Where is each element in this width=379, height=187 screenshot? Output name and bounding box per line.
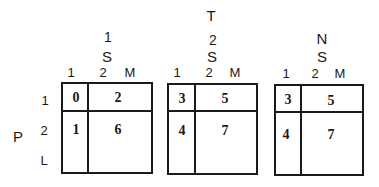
- panel-3-header-s: S: [317, 49, 327, 64]
- row-level-1: 1: [41, 94, 48, 107]
- panel-1-col-m: M: [125, 66, 136, 79]
- panel-2-header-s: S: [207, 49, 217, 64]
- panel-2-header-top: 2: [209, 33, 217, 47]
- panel-2-cell-r1c2: 5: [222, 92, 229, 106]
- panel-3-col-2: 2: [311, 67, 318, 80]
- panel-3-col-1: 1: [282, 67, 289, 80]
- panel-2-col-m: M: [230, 66, 241, 79]
- panel-1-vertical-divider: [87, 84, 89, 172]
- panel-2-col-1: 1: [173, 66, 180, 79]
- panel-3-cell-r1c1: 3: [285, 93, 292, 107]
- panel-3-col-m: M: [335, 67, 346, 80]
- panel-1-col-1: 1: [67, 66, 74, 79]
- panel-2-cell-r2c2: 7: [222, 124, 229, 138]
- panel-3-header-top: N: [317, 31, 328, 46]
- panel-3-cell-r1c2: 5: [328, 94, 335, 108]
- panel-1-header-top: 1: [104, 30, 112, 44]
- panel-2-box: 3 5 4 7: [167, 83, 258, 175]
- panel-2-cell-r2c1: 4: [179, 124, 186, 138]
- panel-1-header-s: S: [102, 49, 112, 64]
- panel-1-cell-r2c2: 6: [115, 123, 122, 137]
- panel-1-cell-r1c1: 0: [73, 91, 80, 105]
- row-axis-label-p: P: [13, 129, 23, 144]
- panel-1-box: 0 2 1 6: [61, 82, 153, 174]
- panel-3-box: 3 5 4 7: [274, 84, 364, 176]
- panel-3-cell-r2c2: 7: [328, 128, 335, 142]
- panel-3-vertical-divider: [300, 86, 302, 174]
- panel-2-vertical-divider: [194, 85, 196, 173]
- panel-2-col-2: 2: [205, 66, 212, 79]
- panel-3-horizontal-divider: [276, 111, 362, 113]
- panel-2-horizontal-divider: [169, 110, 256, 112]
- panel-1-col-2: 2: [99, 66, 106, 79]
- row-level-l: L: [40, 154, 47, 167]
- panel-3-cell-r2c1: 4: [283, 128, 290, 142]
- top-label-t: T: [206, 8, 215, 23]
- panel-1-horizontal-divider: [63, 110, 151, 112]
- panel-2-cell-r1c1: 3: [179, 92, 186, 106]
- panel-1-cell-r2c1: 1: [73, 123, 80, 137]
- row-level-2: 2: [40, 124, 47, 137]
- panel-1-cell-r1c2: 2: [115, 91, 122, 105]
